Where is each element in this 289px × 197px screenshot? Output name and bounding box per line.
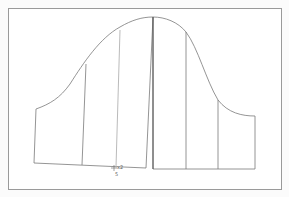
- pattern-diagram: x2 5: [0, 0, 289, 197]
- drawing-canvas: x2 5: [0, 0, 289, 197]
- drawing-frame: [9, 9, 282, 190]
- annotation-text-top: x2: [117, 164, 123, 170]
- annotation-text-bottom: 5: [115, 171, 118, 177]
